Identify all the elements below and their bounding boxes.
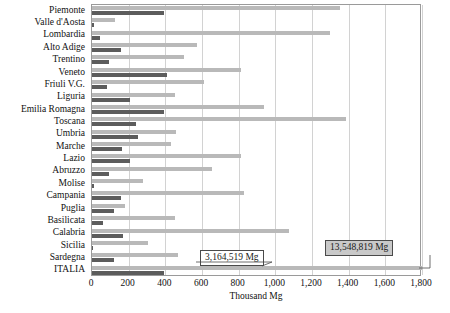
bar-row <box>92 54 420 66</box>
bar-light <box>92 130 176 134</box>
bar-light <box>92 93 175 97</box>
y-axis-label: Veneto <box>59 67 85 77</box>
bar-row <box>92 215 420 227</box>
bar-rows <box>92 5 420 275</box>
x-axis-tick-label: 1,200 <box>300 278 321 289</box>
x-axis-title: Thousand Mg <box>91 291 421 301</box>
y-axis-label: Sardegna <box>50 252 85 262</box>
bar-dark <box>92 110 164 114</box>
y-axis-label: Abruzzo <box>52 165 85 175</box>
y-axis-label: Basilicata <box>48 215 85 225</box>
bar-dark <box>92 48 121 52</box>
bar-light <box>92 18 115 22</box>
bar-light <box>92 241 148 245</box>
y-axis-label: Friuli V.G. <box>44 79 85 89</box>
bar-light <box>92 191 244 195</box>
bar-dark <box>92 184 94 188</box>
x-axis-tick-label: 1,600 <box>374 278 395 289</box>
x-axis-tick-label: 400 <box>157 278 171 289</box>
annotation-italia-dark: 3,164,519 Mg <box>200 250 264 266</box>
bar-row <box>92 265 420 277</box>
y-axis-label: Puglia <box>61 203 85 213</box>
bar-row <box>92 190 420 202</box>
bar-row <box>92 203 420 215</box>
bar-row <box>92 116 420 128</box>
bar-light <box>92 43 197 47</box>
bar-light <box>92 179 143 183</box>
x-axis-tick-label: 800 <box>231 278 245 289</box>
bar-dark <box>92 209 114 213</box>
bar-light <box>92 216 175 220</box>
bar-light <box>92 154 241 158</box>
bar-light <box>92 31 330 35</box>
y-axis-label: Umbria <box>56 128 85 138</box>
bar-dark <box>92 271 164 275</box>
bar-row <box>92 30 420 42</box>
bar-dark <box>92 23 94 27</box>
x-axis-tick-label: 0 <box>89 278 94 289</box>
y-axis-label: Emilia Romagna <box>21 104 85 114</box>
bar-dark <box>92 135 138 139</box>
bar-row <box>92 178 420 190</box>
y-axis-label: Calabria <box>53 227 85 237</box>
bar-row <box>92 17 420 29</box>
bar-row <box>92 129 420 141</box>
bar-dark <box>92 122 136 126</box>
x-axis-tick-label: 1,800 <box>410 278 431 289</box>
y-axis-labels: PiemonteValle d'AostaLombardiaAlto Adige… <box>0 4 88 276</box>
bar-dark <box>92 221 103 225</box>
gridline <box>422 5 423 275</box>
bar-light <box>92 117 346 121</box>
bar-dark <box>92 234 123 238</box>
y-axis-label: Molise <box>59 178 85 188</box>
bar-row <box>92 79 420 91</box>
y-axis-label: Piemonte <box>49 5 85 15</box>
bar-dark <box>92 60 109 64</box>
y-axis-label: Sicilia <box>61 240 85 250</box>
bar-dark <box>92 73 167 77</box>
bar-light <box>92 167 212 171</box>
bar-row <box>92 141 420 153</box>
y-axis-label: Trentino <box>53 54 85 64</box>
bar-light <box>92 68 241 72</box>
bar-dark <box>92 85 107 89</box>
bar-dark <box>92 258 114 262</box>
bar-row <box>92 92 420 104</box>
bar-dark <box>92 147 122 151</box>
bar-light <box>92 266 422 270</box>
y-axis-label: ITALIA <box>54 264 85 274</box>
bar-row <box>92 153 420 165</box>
y-axis-label: Campania <box>46 190 85 200</box>
y-axis-label: Liguria <box>57 91 85 101</box>
bar-light <box>92 55 184 59</box>
bar-row <box>92 104 420 116</box>
bar-light <box>92 229 289 233</box>
bar-dark <box>92 36 100 40</box>
bar-row <box>92 42 420 54</box>
bar-light <box>92 204 125 208</box>
bar-row <box>92 228 420 240</box>
x-axis-tick-label: 1,400 <box>337 278 358 289</box>
bar-light <box>92 6 340 10</box>
bar-dark <box>92 172 109 176</box>
bar-dark <box>92 11 164 15</box>
bar-light <box>92 142 171 146</box>
bar-row <box>92 166 420 178</box>
bar-light <box>92 105 264 109</box>
annotation-italia-light: 13,548,819 Mg <box>325 240 393 256</box>
x-axis-tick-label: 600 <box>194 278 208 289</box>
y-axis-label: Lombardia <box>43 29 85 39</box>
x-axis-ticks: 02004006008001,0001,2001,4001,6001,800 <box>0 278 450 292</box>
bar-light <box>92 80 204 84</box>
bar-dark <box>92 159 130 163</box>
x-axis-tick-label: 1,000 <box>264 278 285 289</box>
y-axis-label: Lazio <box>63 153 85 163</box>
x-axis-tick-label: 200 <box>121 278 135 289</box>
y-axis-label: Valle d'Aosta <box>34 17 85 27</box>
bar-row <box>92 5 420 17</box>
y-axis-label: Toscana <box>54 116 85 126</box>
bar-dark <box>92 98 130 102</box>
bar-chart: PiemonteValle d'AostaLombardiaAlto Adige… <box>0 0 450 313</box>
bar-dark <box>92 246 93 250</box>
y-axis-label: Marche <box>56 141 85 151</box>
